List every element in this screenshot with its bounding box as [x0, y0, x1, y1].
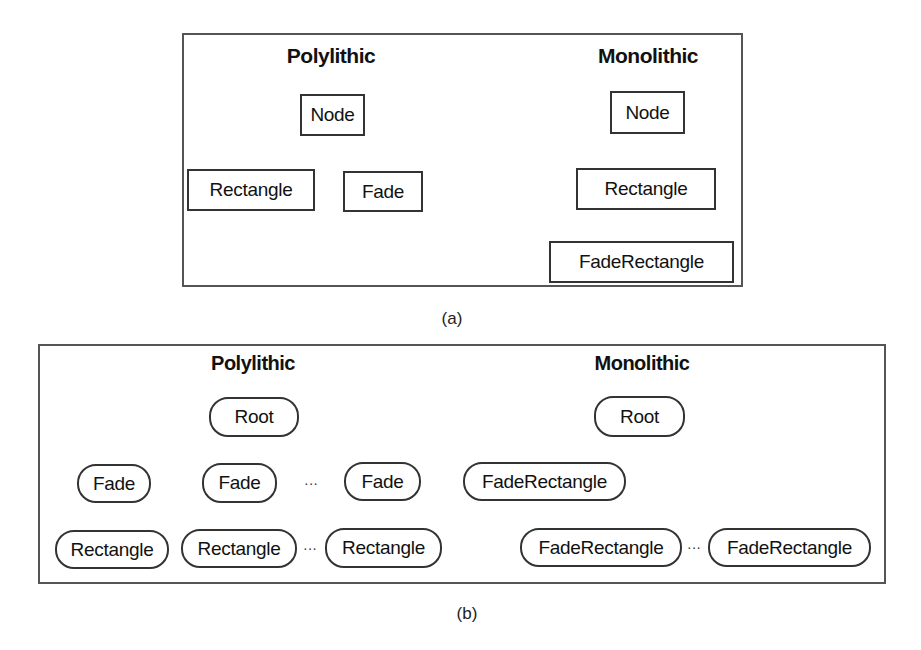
figure-a-polylithic-title: Polylithic	[287, 44, 375, 68]
figure-a-monolithic-title: Monolithic	[598, 44, 698, 68]
figure-b-polylithic-title: Polylithic	[211, 352, 295, 375]
figure-b-poly-fade-ellipsis: ···	[304, 475, 318, 491]
figure-a-poly-rectangle: Rectangle	[187, 169, 315, 211]
figure-b-poly-fade-1: Fade	[77, 464, 151, 503]
figure-b-poly-root: Root	[209, 397, 299, 437]
figure-a-caption: (a)	[442, 309, 463, 329]
figure-b-poly-fade-3: Fade	[344, 462, 421, 501]
figure-b-caption: (b)	[457, 604, 478, 624]
figure-a-mono-rectangle: Rectangle	[576, 168, 716, 210]
figure-b-mono-faderectangle-2: FadeRectangle	[520, 528, 682, 567]
figure-b-mono-ellipsis: ···	[687, 539, 701, 555]
figure-b-poly-fade-2: Fade	[202, 463, 277, 503]
figure-b-monolithic-title: Monolithic	[595, 352, 690, 375]
figure-a-poly-node: Node	[300, 94, 365, 136]
figure-b-poly-rectangle-2: Rectangle	[181, 529, 297, 568]
figure-b-poly-rectangle-1: Rectangle	[55, 530, 169, 569]
figure-b-poly-rectangle-ellipsis: ···	[303, 540, 317, 556]
figure-b-mono-root: Root	[594, 396, 685, 437]
figure-b-mono-faderectangle-1: FadeRectangle	[463, 462, 626, 501]
figure-a-mono-faderectangle: FadeRectangle	[549, 241, 734, 283]
figure-a-poly-fade: Fade	[343, 171, 423, 212]
figure-b-mono-faderectangle-3: FadeRectangle	[708, 528, 871, 567]
figure-a-mono-node: Node	[610, 91, 685, 134]
figure-b-poly-rectangle-3: Rectangle	[325, 528, 442, 568]
